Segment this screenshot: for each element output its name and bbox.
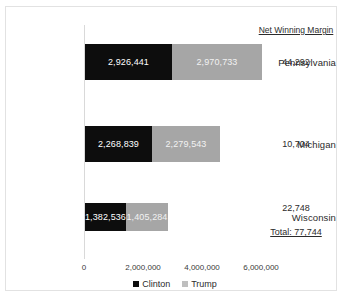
chart-frame: Pennsylvania Michigan Wisconsin 2,926,44… [5,6,337,291]
net-margin-value-pennsylvania: 44,292 [252,57,340,67]
bar-pennsylvania[interactable]: 2,926,441 2,970,733 [85,44,262,80]
legend-label-clinton: Clinton [142,279,170,289]
bar-value-label: 2,279,543 [166,139,207,149]
legend-swatch-icon [182,281,188,287]
chart-legend: Clinton Trump [85,279,265,289]
bar-value-label: 2,268,839 [98,139,139,149]
bar-value-label: 2,926,441 [108,57,149,67]
legend-swatch-icon [133,281,139,287]
x-axis-tick-3: 6,000,000 [243,263,279,272]
bar-segment-clinton-michigan[interactable]: 2,268,839 [85,126,152,162]
bar-segment-trump-wisconsin[interactable]: 1,405,284 [126,203,168,231]
net-margin-value-wisconsin: 22,748 [252,203,340,213]
bar-segment-trump-michigan[interactable]: 2,279,543 [152,126,220,162]
bar-segment-trump-pennsylvania[interactable]: 2,970,733 [172,44,262,80]
x-axis-tick-2: 4,000,000 [184,263,220,272]
x-axis-tick-1: 2,000,000 [125,263,161,272]
net-margin-value-michigan: 10,704 [252,139,340,149]
legend-item-trump[interactable]: Trump [182,279,217,289]
legend-item-clinton[interactable]: Clinton [133,279,170,289]
bar-value-label: 2,970,733 [197,57,238,67]
bar-value-label: 1,405,284 [127,212,168,222]
bar-value-label: 1,382,536 [85,212,126,222]
bar-wisconsin[interactable]: 1,382,536 1,405,284 [85,203,168,231]
bar-segment-clinton-wisconsin[interactable]: 1,382,536 [85,203,126,231]
net-winning-margin-header: Net Winning Margin [252,25,340,35]
legend-label-trump: Trump [191,279,217,289]
bar-michigan[interactable]: 2,268,839 2,279,543 [85,126,220,162]
x-axis-tick-0: 0 [82,263,86,272]
chart-screenshot: Pennsylvania Michigan Wisconsin 2,926,44… [0,0,343,301]
bar-segment-clinton-pennsylvania[interactable]: 2,926,441 [85,44,172,80]
category-label-wisconsin: Wisconsin [261,212,336,223]
net-margin-total: Total: 77,744 [252,227,340,237]
